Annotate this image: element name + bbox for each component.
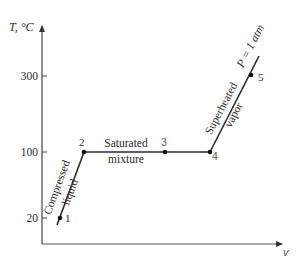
pressure-label: P = 1 atm [234, 23, 266, 70]
saturated-label-line1: Saturated [104, 137, 148, 149]
tick-label-20: 20 [27, 212, 39, 224]
point-label-5: 5 [258, 71, 264, 83]
state-point-5 [249, 73, 254, 78]
saturated-label-line2: mixture [108, 153, 144, 165]
tick-label-100: 100 [21, 146, 39, 158]
point-label-2: 2 [79, 136, 85, 148]
point-label-4: 4 [212, 150, 218, 162]
tick-label-300: 300 [21, 70, 39, 82]
state-point-1 [58, 216, 63, 221]
x-axis-label: v [283, 246, 290, 258]
point-label-3: 3 [161, 136, 167, 148]
y-axis-label: T, °C [9, 20, 35, 34]
tv-diagram: T, °C v 300 100 20 1 2 3 4 5 Saturated m… [0, 0, 300, 267]
state-point-2 [82, 150, 87, 155]
point-label-1: 1 [65, 212, 71, 224]
state-point-3 [163, 150, 168, 155]
